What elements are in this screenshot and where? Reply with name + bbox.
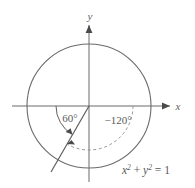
equation-right-value: 1 bbox=[164, 164, 170, 176]
x-axis-arrowhead-icon bbox=[162, 103, 170, 110]
y-axis-label: y bbox=[87, 10, 93, 22]
axes-group bbox=[12, 25, 170, 182]
y-axis-arrowhead-icon bbox=[86, 25, 93, 33]
figure-canvas: x y 60° −120° x2 + y2 = 1 bbox=[0, 0, 195, 188]
unit-circle-figure: x y 60° −120° x2 + y2 = 1 bbox=[0, 0, 195, 188]
equation-plus-operator: + bbox=[131, 164, 143, 176]
positive-angle-arrowhead-icon bbox=[66, 128, 73, 134]
equation-equals-operator: = bbox=[152, 164, 164, 176]
circle-equation-label: x2 + y2 = 1 bbox=[121, 163, 170, 177]
positive-angle-label: 60° bbox=[62, 112, 77, 124]
x-axis-label: x bbox=[175, 100, 181, 112]
negative-angle-label: −120° bbox=[104, 114, 131, 126]
